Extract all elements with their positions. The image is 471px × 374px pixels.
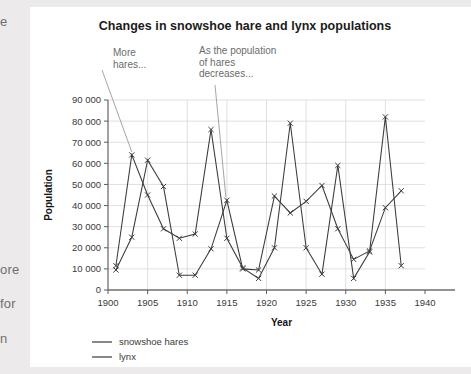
data-point-marker [319, 183, 324, 188]
x-tick-label: 1935 [375, 297, 396, 308]
legend-label-0: snowshoe hares [119, 336, 188, 347]
y-tick-label: 90 000 [72, 94, 101, 105]
leader-line-more-hares [102, 70, 132, 152]
x-tick-label: 1900 [97, 297, 118, 308]
figure-panel: Changes in snowshoe hare and lynx popula… [30, 7, 471, 367]
data-point-marker [113, 267, 118, 272]
data-point-marker [256, 276, 261, 281]
x-tick-label: 1915 [216, 297, 237, 308]
y-tick-label: 50 000 [72, 179, 101, 190]
line-chart: 010 00020 00030 00040 00050 00060 00070 … [30, 7, 471, 367]
chart-legend: snowshoe hareslynx [92, 336, 188, 362]
leader-line-hares-decrease [215, 85, 226, 197]
y-tick-label: 10 000 [72, 263, 101, 274]
y-tick-label: 80 000 [72, 116, 101, 127]
x-tick-label: 1940 [414, 297, 435, 308]
y-tick-label: 30 000 [72, 221, 101, 232]
x-tick-label: 1910 [177, 297, 198, 308]
legend-label-1: lynx [119, 351, 136, 362]
series-line-snowshoe-hares [116, 117, 401, 279]
data-point-marker [351, 257, 356, 262]
data-point-marker [399, 188, 404, 193]
axis-labels: 010 00020 00030 00040 00050 00060 00070 … [43, 94, 436, 328]
y-tick-label: 40 000 [72, 200, 101, 211]
axis-ticks [104, 100, 425, 294]
y-tick-label: 60 000 [72, 158, 101, 169]
x-tick-label: 1905 [137, 297, 158, 308]
data-series [113, 114, 404, 281]
x-axis-title: Year [271, 317, 292, 328]
page-margin-fragment-1: e [0, 14, 7, 29]
page-margin-fragment-4: n [0, 331, 7, 346]
y-tick-label: 70 000 [72, 137, 101, 148]
x-tick-label: 1920 [256, 297, 277, 308]
y-tick-label: 20 000 [72, 242, 101, 253]
data-point-marker [208, 246, 213, 251]
y-tick-label: 0 [96, 284, 101, 295]
data-point-marker [288, 210, 293, 215]
x-tick-label: 1930 [335, 297, 356, 308]
annotation-leader-lines [102, 70, 226, 197]
page-margin-fragment-2: ore [0, 262, 19, 277]
page-margin-fragment-3: for [0, 296, 16, 311]
gridlines [108, 100, 425, 290]
y-axis-title: Population [43, 169, 54, 221]
x-tick-label: 1925 [296, 297, 317, 308]
